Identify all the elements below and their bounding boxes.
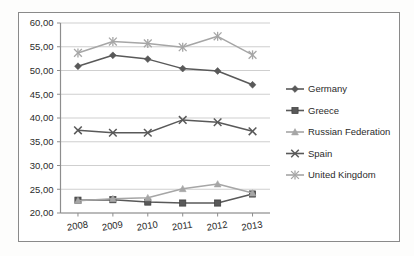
data-point-marker [215, 200, 221, 206]
data-point-marker [179, 65, 186, 72]
ytick-label: 20,00 [30, 207, 54, 218]
legend-item-russian-federation[interactable]: Russian Federation [286, 126, 390, 137]
marker-diamond [179, 65, 186, 72]
data-point-marker [214, 32, 222, 41]
legend-item-germany[interactable]: Germany [286, 83, 347, 94]
data-point-marker [144, 56, 151, 63]
data-point-marker [292, 86, 299, 93]
series-united-kingdom [74, 32, 256, 59]
xtick-label: 2009 [101, 218, 124, 232]
line-chart-figure: 20,0025,0030,0035,0040,0045,0050,0055,00… [0, 0, 414, 256]
legend-item-greece[interactable]: Greece [286, 105, 339, 116]
marker-diamond [75, 63, 82, 70]
data-point-marker [109, 52, 116, 59]
marker-diamond [292, 86, 299, 93]
legend-item-spain[interactable]: Spain [286, 148, 332, 159]
data-point-marker [214, 68, 221, 75]
marker-diamond [249, 81, 256, 88]
data-point-marker [292, 107, 298, 113]
series-line [78, 55, 253, 84]
marker-diamond [214, 68, 221, 75]
marker-square [180, 200, 186, 206]
data-point-marker [74, 48, 82, 57]
ytick-label: 55,00 [30, 41, 54, 52]
legend-label: United Kingdom [308, 169, 376, 180]
xtick-label: 2012 [206, 218, 229, 232]
series-line [78, 184, 253, 201]
ytick-label: 25,00 [30, 184, 54, 195]
ytick-label: 40,00 [30, 112, 54, 123]
data-point-marker [249, 81, 256, 88]
chart-legend: GermanyGreeceRussian FederationSpainUnit… [277, 78, 390, 180]
marker-diamond [144, 56, 151, 63]
series-line [78, 36, 253, 55]
legend-label: Germany [308, 83, 347, 94]
legend-label: Spain [308, 148, 332, 159]
series-spain [74, 116, 256, 136]
ytick-label: 30,00 [30, 160, 54, 171]
series-germany [75, 52, 256, 88]
marker-diamond [109, 52, 116, 59]
ytick-label: 50,00 [30, 65, 54, 76]
legend-label: Greece [308, 105, 339, 116]
xtick-label: 2013 [241, 218, 264, 232]
legend-label: Russian Federation [308, 126, 390, 137]
series-line [78, 120, 253, 133]
xtick-label: 2011 [171, 219, 193, 233]
ytick-label: 35,00 [30, 136, 54, 147]
legend-item-united-kingdom[interactable]: United Kingdom [286, 169, 376, 180]
data-point-marker [249, 50, 257, 59]
ytick-label: 60,00 [30, 17, 54, 28]
data-point-marker [75, 63, 82, 70]
chart-plot-area: 20,0025,0030,0035,0040,0045,0050,0055,00… [0, 0, 414, 256]
marker-square [215, 200, 221, 206]
ytick-label: 45,00 [30, 89, 54, 100]
xtick-label: 2008 [66, 218, 89, 232]
xtick-label: 2010 [136, 218, 159, 232]
marker-square [292, 107, 298, 113]
data-point-marker [180, 200, 186, 206]
